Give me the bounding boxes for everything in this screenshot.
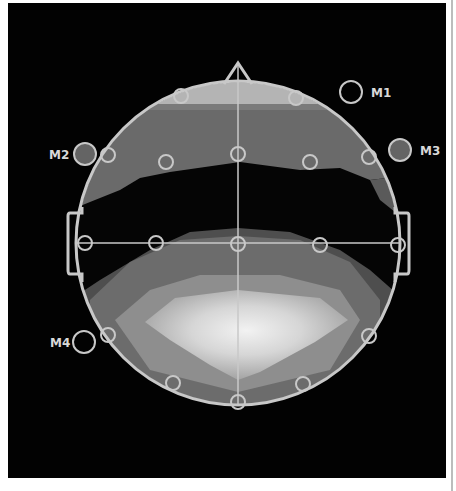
- reference-m1-label: M1: [371, 86, 391, 100]
- reference-m3[interactable]: M3: [389, 139, 440, 161]
- reference-m4[interactable]: M4: [50, 331, 95, 353]
- reference-m3-label: M3: [420, 144, 440, 158]
- reference-m1-marker[interactable]: [340, 81, 362, 103]
- reference-m3-marker[interactable]: [389, 139, 411, 161]
- reference-m2[interactable]: M2: [49, 143, 96, 165]
- topographic-map: M1 M2 M3 M4: [0, 0, 456, 491]
- reference-m4-marker[interactable]: [73, 331, 95, 353]
- reference-m2-label: M2: [49, 148, 69, 162]
- potential-field: [70, 75, 410, 420]
- reference-m4-label: M4: [50, 336, 70, 350]
- reference-m2-marker[interactable]: [74, 143, 96, 165]
- reference-m1[interactable]: M1: [340, 81, 391, 103]
